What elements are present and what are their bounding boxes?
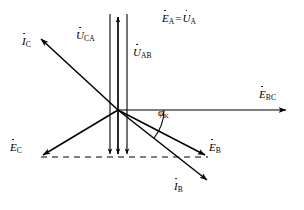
label-ea-symbol: E	[162, 13, 169, 24]
phasor-dot-icon	[23, 33, 25, 35]
label-ic: IC	[22, 36, 31, 48]
phasor-dot-icon	[261, 86, 263, 88]
label-ib: IB	[174, 181, 183, 193]
vector-line-ec	[43, 110, 118, 155]
label-ua-symbol: U	[183, 13, 191, 24]
phasor-dot-icon	[175, 178, 177, 180]
phasor-dot-icon	[211, 139, 213, 141]
label-phi-k: φK	[158, 108, 169, 120]
phasor-dot-icon	[79, 27, 81, 29]
phasor-diagram-canvas	[0, 0, 304, 210]
phasor-dot-icon	[186, 10, 188, 12]
phasor-dot-icon	[164, 10, 166, 12]
label-eb: EB	[209, 142, 221, 154]
label-ebc: EBC	[259, 89, 276, 101]
phasor-diagram-figure: EA=UA UCA UAB IC EBC φK EC EB IB	[0, 0, 304, 210]
label-uca: UCA	[76, 30, 95, 42]
phasor-dot-icon	[136, 44, 138, 46]
phasor-dot-icon	[12, 139, 14, 141]
label-uab: UAB	[133, 47, 152, 59]
label-ec: EC	[10, 142, 22, 154]
vector-line-ic	[41, 39, 118, 110]
label-ea-equals-ua: EA=UA	[162, 13, 196, 25]
